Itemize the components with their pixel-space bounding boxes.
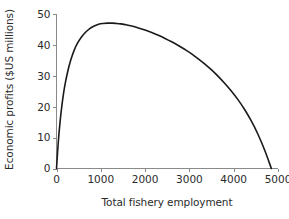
y-tick-label: 0 <box>44 162 51 174</box>
x-tick-label: 2000 <box>132 173 159 185</box>
y-tick-label: 30 <box>37 70 50 82</box>
x-tick-label: 0 <box>53 173 60 185</box>
chart-figure: Economic profits ($US millions) Total fi… <box>0 0 289 219</box>
y-tick-label: 50 <box>37 8 50 20</box>
x-tick-group: 010002000300040005000 <box>53 169 289 185</box>
plot-area: 01020304050 010002000300040005000 <box>0 0 289 219</box>
y-tick-group: 01020304050 <box>37 8 56 175</box>
profit-curve <box>57 23 272 168</box>
x-tick-label: 4000 <box>220 173 247 185</box>
x-tick-label: 1000 <box>87 173 114 185</box>
x-tick-label: 5000 <box>265 173 289 185</box>
y-tick-label: 10 <box>37 131 50 143</box>
y-tick-label: 40 <box>37 39 50 51</box>
y-tick-label: 20 <box>37 101 50 113</box>
x-tick-label: 3000 <box>176 173 203 185</box>
